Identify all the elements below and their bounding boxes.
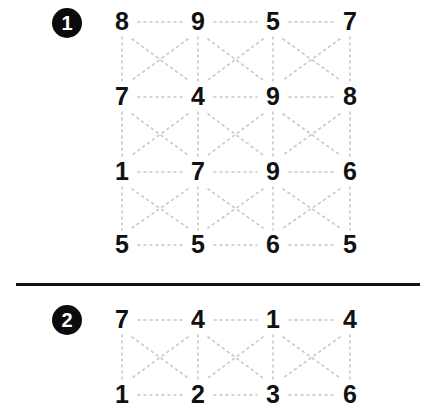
- grid-cell-number: 1: [104, 382, 140, 407]
- grid-cell-number: 7: [104, 307, 140, 332]
- grid-cell-number: 9: [255, 84, 291, 109]
- grid-cell-number: 3: [255, 382, 291, 407]
- grid-cell-number: 8: [332, 84, 368, 109]
- grid-cell-number: 4: [180, 84, 216, 109]
- grid-cell-number: 6: [332, 382, 368, 407]
- grid-cell-number: 4: [332, 307, 368, 332]
- grid-cell-number: 5: [255, 9, 291, 34]
- grid-cell-number: 8: [104, 9, 140, 34]
- grid-cell-number: 4: [180, 307, 216, 332]
- puzzle-block-1: 1 8957749817965565: [0, 0, 438, 272]
- grid-cell-number: 1: [255, 307, 291, 332]
- grid-cell-number: 7: [332, 9, 368, 34]
- grid-cell-number: 5: [180, 232, 216, 257]
- grid-cell-number: 9: [180, 9, 216, 34]
- grid-cell-number: 1: [104, 159, 140, 184]
- grid-cell-number: 7: [180, 159, 216, 184]
- grid-cell-number: 2: [180, 382, 216, 407]
- section-divider: [16, 283, 420, 286]
- puzzle-marker-2: 2: [52, 305, 82, 335]
- puzzle-marker-1: 1: [52, 8, 82, 38]
- grid-cell-number: 6: [332, 159, 368, 184]
- grid-cell-number: 5: [332, 232, 368, 257]
- grid-cell-number: 5: [104, 232, 140, 257]
- grid-cell-number: 7: [104, 84, 140, 109]
- grid-cell-number: 9: [255, 159, 291, 184]
- grid-cell-number: 6: [255, 232, 291, 257]
- puzzle-block-2: 2 74141236: [0, 296, 438, 413]
- worksheet-page: 1 8957749817965565 2 74141236: [0, 0, 438, 413]
